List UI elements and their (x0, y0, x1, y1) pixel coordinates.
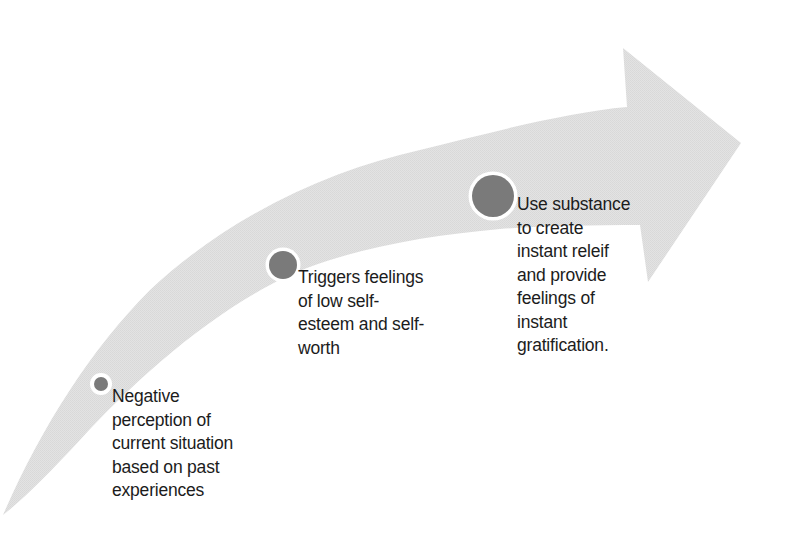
step-2-marker-icon (266, 248, 301, 283)
step-2-label: Triggers feelings of low self- esteem an… (298, 266, 468, 360)
step-1-label: Negative perception of current situation… (112, 385, 282, 503)
step-1-marker-icon (90, 373, 112, 395)
step-3-marker-icon (469, 172, 518, 221)
step-3-label: Use substance to create instant releif a… (517, 193, 677, 358)
